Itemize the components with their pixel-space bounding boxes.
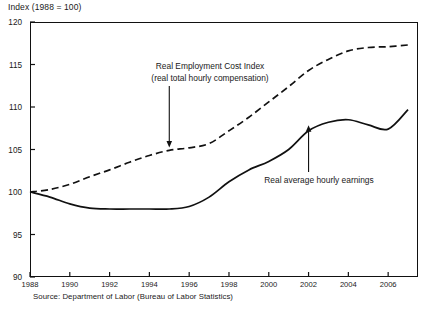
y-tick-label: 105 xyxy=(0,145,22,154)
x-tick-label: 2002 xyxy=(289,280,329,289)
x-tick-label: 1998 xyxy=(209,280,249,289)
annotation-eci-line-2: (real total hourly compensation) xyxy=(117,72,303,84)
y-tick-label: 115 xyxy=(0,60,22,69)
x-tick-label: 1988 xyxy=(10,280,50,289)
annotation-eci-line-1: Real Employment Cost Index xyxy=(117,60,303,72)
y-tick-label: 95 xyxy=(0,230,22,239)
source-note: Source: Department of Labor (Bureau of L… xyxy=(33,292,233,301)
x-tick-label: 2000 xyxy=(249,280,289,289)
y-axis-title: Index (1988 = 100) xyxy=(8,2,81,12)
x-tick-label: 1992 xyxy=(90,280,130,289)
y-tick-label: 120 xyxy=(0,18,22,27)
x-tick-label: 1996 xyxy=(169,280,209,289)
annotation-real-average-hourly-earnings: Real average hourly earnings xyxy=(239,174,399,186)
annotation-real-employment-cost-index: Real Employment Cost Index (real total h… xyxy=(117,60,303,84)
x-tick-label: 2004 xyxy=(328,280,368,289)
x-tick-label: 1990 xyxy=(50,280,90,289)
y-tick-label: 100 xyxy=(0,188,22,197)
x-tick-label: 2006 xyxy=(368,280,408,289)
x-tick-label: 1994 xyxy=(129,280,169,289)
chart-figure: Index (1988 = 100) 1201151101051009590 1… xyxy=(0,0,430,310)
y-tick-label: 110 xyxy=(0,103,22,112)
